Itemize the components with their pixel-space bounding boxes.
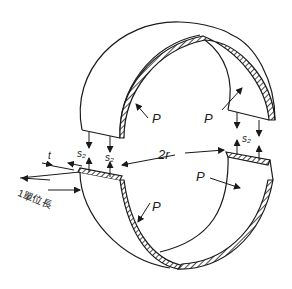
pressure-label-bottom-right: P bbox=[196, 170, 205, 183]
s2-label-left-inner: s₂ bbox=[105, 153, 114, 163]
s2-label-left-outer: s₂ bbox=[77, 149, 86, 159]
pressure-label-top-left: P bbox=[152, 112, 161, 125]
force-arrows bbox=[22, 88, 259, 222]
thickness-label: t bbox=[48, 151, 51, 161]
s2-label-right: s₂ bbox=[242, 134, 251, 144]
pressure-label-top-right: P bbox=[204, 112, 213, 125]
lower-half-ring bbox=[78, 152, 273, 269]
upper-half-ring bbox=[80, 22, 275, 138]
diameter-label: 2r bbox=[158, 148, 170, 161]
ring-diagram bbox=[0, 0, 292, 289]
pressure-label-bottom-left: P bbox=[152, 200, 161, 213]
